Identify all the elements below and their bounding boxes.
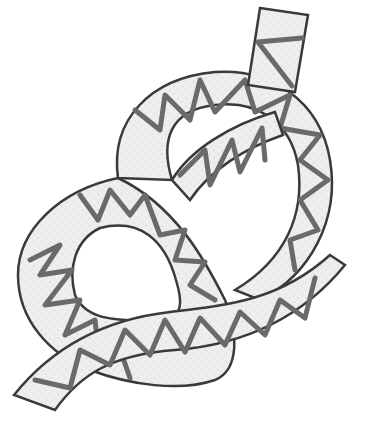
- knot-illustration: figure-eight knot tied in a patterned ri…: [0, 0, 370, 430]
- top-ribbon-end: [248, 8, 308, 92]
- knot-drawing: [0, 0, 370, 430]
